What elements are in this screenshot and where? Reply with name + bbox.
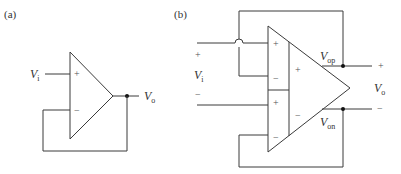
op-amp-figure: (a) Vi + − Vo (b) + − + − + − <box>0 0 401 174</box>
panel-b-label: (b) <box>174 8 187 21</box>
von-node <box>341 107 345 111</box>
fully-differential-amp-triangle <box>268 26 350 152</box>
output-label-vo: Vo <box>144 89 155 105</box>
lower-stage-plus-sign: + <box>273 97 279 108</box>
input-label-vi: Vi <box>194 68 204 84</box>
plus-input-sign: + <box>74 68 80 79</box>
input-minus-sign: − <box>195 89 201 100</box>
vop-node <box>341 64 345 68</box>
von-label: Von <box>320 115 335 131</box>
minus-input-sign: − <box>74 105 80 116</box>
panel-a-label: (a) <box>4 8 17 21</box>
plus-input-wire <box>197 39 268 43</box>
bottom-feedback-loop <box>239 109 343 167</box>
op-amp-triangle <box>70 52 113 139</box>
vop-label: Vop <box>320 49 335 65</box>
output-minus-sign: − <box>377 103 383 114</box>
inner-plus-sign: + <box>295 64 301 75</box>
lower-stage-minus-sign: − <box>273 132 279 143</box>
input-label-vi: Vi <box>30 67 40 83</box>
input-plus-sign: + <box>195 49 201 60</box>
upper-stage-plus-sign: + <box>273 38 279 49</box>
output-plus-sign: + <box>378 60 384 71</box>
panel-b: (b) + − + − + − + Vi − Vop <box>174 8 385 167</box>
output-label-vo: Vo <box>374 81 385 97</box>
top-feedback-loop-lower <box>239 47 268 76</box>
panel-a: (a) Vi + − Vo <box>4 8 155 151</box>
inner-minus-sign: − <box>295 110 301 121</box>
upper-stage-minus-sign: − <box>273 73 279 84</box>
